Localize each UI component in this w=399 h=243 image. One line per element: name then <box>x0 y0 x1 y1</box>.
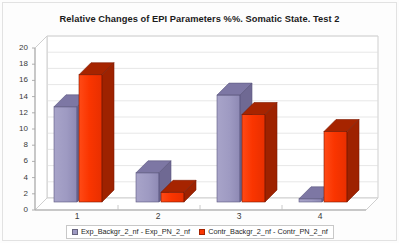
x-tick-label: 1 <box>62 212 92 221</box>
y-tick-label: 2 <box>6 190 28 198</box>
legend-label-series1: Exp_Backgr_2_nf - Exp_PN_2_nf <box>81 228 190 236</box>
y-tick-label: 8 <box>6 141 28 149</box>
y-tick-label: 4 <box>6 174 28 182</box>
chart-legend: Exp_Backgr_2_nf - Exp_PN_2_nf Contr_Back… <box>66 225 334 239</box>
legend-swatch-series2 <box>199 229 205 235</box>
y-tick-label: 14 <box>6 93 28 101</box>
y-tick-label: 18 <box>6 60 28 68</box>
x-tick-label: 3 <box>224 212 254 221</box>
bar-series2-cat4 <box>324 120 359 203</box>
x-tick-label: 4 <box>305 212 335 221</box>
legend-label-series2: Contr_Backgr_2_nf - Contr_PN_2_nf <box>208 228 328 236</box>
y-tick-label: 16 <box>6 76 28 84</box>
y-tick-label: 0 <box>6 206 28 214</box>
chart-screenshot: Relative Changes of EPI Parameters %%. S… <box>0 0 399 243</box>
y-tick-label: 6 <box>6 157 28 165</box>
chart-canvas <box>0 0 399 243</box>
legend-swatch-series1 <box>72 229 78 235</box>
bar-series2-cat3 <box>242 103 277 203</box>
legend-item-series1[interactable]: Exp_Backgr_2_nf - Exp_PN_2_nf <box>72 228 190 236</box>
legend-item-series2[interactable]: Contr_Backgr_2_nf - Contr_PN_2_nf <box>199 228 328 236</box>
x-tick-label: 2 <box>143 212 173 221</box>
bar-series2-cat1 <box>79 63 114 202</box>
y-tick-label: 20 <box>6 44 28 52</box>
plot-area: 20 18 16 14 12 10 8 6 4 2 0 1 2 3 4 <box>0 0 399 243</box>
y-tick-label: 12 <box>6 109 28 117</box>
y-tick-label: 10 <box>6 125 28 133</box>
